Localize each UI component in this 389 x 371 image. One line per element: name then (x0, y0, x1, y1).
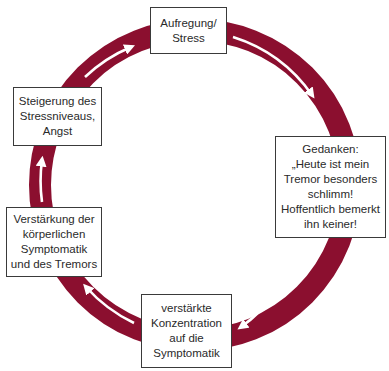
node-right: Gedanken: „Heute ist mein Tremor besonde… (275, 136, 386, 238)
node-right-label: Gedanken: „Heute ist mein Tremor besonde… (281, 142, 380, 232)
node-lower-left-label: Verstärkung der körperlichen Symptomatik… (11, 212, 97, 272)
node-upper-left-label: Steigerung des Stressniveaus, Angst (19, 94, 96, 139)
arrow-lower-left-to-upper-left-icon (41, 160, 42, 202)
node-top-label: Aufregung/ Stress (160, 16, 216, 46)
node-bottom-label: verstärkte Konzentration auf die Symptom… (151, 301, 222, 361)
node-upper-left: Steigerung des Stressniveaus, Angst (13, 87, 102, 146)
node-top: Aufregung/ Stress (150, 7, 227, 54)
node-bottom: verstärkte Konzentration auf die Symptom… (141, 294, 232, 368)
node-lower-left: Verstärkung der körperlichen Symptomatik… (6, 207, 102, 277)
